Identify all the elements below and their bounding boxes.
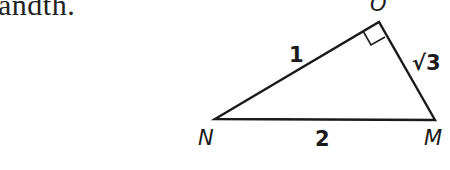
side-label-NO: 1	[289, 43, 304, 67]
triangle-NOM	[215, 22, 435, 120]
vertex-label-O: O	[370, 0, 387, 16]
vertex-label-N: N	[198, 126, 214, 150]
side-label-OM: √3	[412, 51, 441, 75]
right-angle-marker	[363, 31, 385, 45]
triangle-diagram: O N M 1 √3 2	[0, 0, 450, 170]
side-label-NM: 2	[315, 127, 330, 151]
vertex-label-M: M	[424, 126, 442, 150]
